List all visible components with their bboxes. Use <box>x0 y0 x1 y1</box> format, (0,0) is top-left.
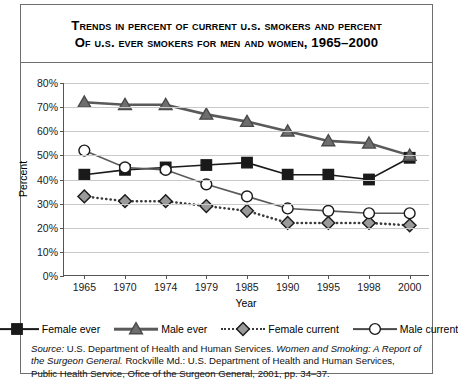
y-tick-label: 60% <box>37 125 58 137</box>
x-tick-label: 1970 <box>113 281 136 293</box>
source-part-2: U.S. Department of Health and Human Serv… <box>64 343 276 354</box>
y-tick-label: 80% <box>37 77 58 89</box>
y-tick-label: 40% <box>37 174 58 186</box>
legend-item-male-current[interactable]: Male current <box>353 323 458 335</box>
data-point-square <box>323 169 333 179</box>
gridline <box>64 107 429 108</box>
y-tick-mark <box>60 131 64 132</box>
data-point-triangle <box>130 323 143 334</box>
x-tick-mark <box>166 275 167 279</box>
y-tick-mark <box>60 83 64 84</box>
data-point-circle <box>364 208 375 219</box>
data-point-circle <box>120 162 131 173</box>
chart-title-line-2: of U.S. Ever Smokers for Men and Women, … <box>75 34 378 51</box>
chart-legend: Female everMale everFemale currentMale c… <box>21 317 432 341</box>
legend-label: Male current <box>400 323 458 335</box>
gridline <box>64 83 429 84</box>
x-tick-mark <box>247 275 248 279</box>
y-tick-mark <box>60 228 64 229</box>
y-tick-label: 0% <box>43 270 58 282</box>
legend-marker <box>128 321 144 337</box>
data-point-diamond <box>78 190 91 203</box>
data-point-diamond <box>159 195 172 208</box>
x-axis-label: Year <box>235 297 256 309</box>
source-label: Source: <box>31 343 64 354</box>
y-tick-mark <box>60 107 64 108</box>
chart-title: Trends in Percent of Current U.S. Smoker… <box>21 5 432 63</box>
data-point-circle <box>242 191 253 202</box>
legend-marker <box>367 321 383 337</box>
x-tick-label: 1998 <box>357 281 380 293</box>
plot-frame: 0%10%20%30%40%50%60%70%80%19651970197419… <box>63 83 429 276</box>
source-note: Source: U.S. Department of Health and Hu… <box>21 341 432 380</box>
y-tick-label: 10% <box>37 246 58 258</box>
y-tick-label: 70% <box>37 101 58 113</box>
data-point-circle <box>79 145 90 156</box>
x-tick-mark <box>288 275 289 279</box>
gridline <box>64 228 429 229</box>
legend-label: Female ever <box>42 323 100 335</box>
y-tick-mark <box>60 276 64 277</box>
x-tick-mark <box>84 275 85 279</box>
x-tick-mark <box>328 275 329 279</box>
x-tick-mark <box>410 275 411 279</box>
y-tick-mark <box>60 252 64 253</box>
plot-area: Percent Year 0%10%20%30%40%50%60%70%80%1… <box>21 63 432 317</box>
data-point-circle <box>282 203 293 214</box>
data-point-circle <box>404 208 415 219</box>
data-point-circle <box>160 164 171 175</box>
gridline <box>64 204 429 205</box>
data-point-diamond <box>200 200 213 213</box>
y-tick-label: 50% <box>37 149 58 161</box>
y-axis-label: Percent <box>17 161 29 197</box>
data-point-circle <box>369 324 380 335</box>
legend-item-female-ever[interactable]: Female ever <box>0 323 100 335</box>
legend-marker <box>9 321 25 337</box>
x-tick-mark <box>206 275 207 279</box>
y-tick-mark <box>60 204 64 205</box>
y-tick-mark <box>60 180 64 181</box>
data-point-square <box>282 169 292 179</box>
x-tick-label: 1974 <box>154 281 177 293</box>
legend-swatch <box>114 323 158 335</box>
legend-swatch <box>0 323 39 335</box>
y-tick-label: 20% <box>37 222 58 234</box>
x-tick-mark <box>369 275 370 279</box>
legend-swatch <box>221 323 265 335</box>
gridline <box>64 252 429 253</box>
x-tick-label: 1995 <box>317 281 340 293</box>
series-line <box>84 102 409 155</box>
legend-item-male-ever[interactable]: Male ever <box>114 323 207 335</box>
gridline <box>64 180 429 181</box>
data-point-diamond <box>241 204 254 217</box>
x-tick-label: 1985 <box>235 281 258 293</box>
x-tick-label: 1990 <box>276 281 299 293</box>
data-point-diamond <box>403 219 416 232</box>
y-tick-mark <box>60 155 64 156</box>
legend-label: Female current <box>268 323 339 335</box>
data-point-square <box>242 157 252 167</box>
data-point-circle <box>201 179 212 190</box>
x-tick-label: 1965 <box>73 281 96 293</box>
legend-swatch <box>353 323 397 335</box>
data-point-square <box>79 169 89 179</box>
x-tick-mark <box>125 275 126 279</box>
chart-title-line-1: Trends in Percent of Current U.S. Smoker… <box>71 17 382 34</box>
data-point-circle <box>323 205 334 216</box>
data-point-diamond <box>237 323 250 336</box>
y-tick-label: 30% <box>37 198 58 210</box>
legend-item-female-current[interactable]: Female current <box>221 323 339 335</box>
legend-marker <box>235 321 251 337</box>
data-point-square <box>201 160 211 170</box>
gridline <box>64 131 429 132</box>
x-tick-label: 2000 <box>398 281 421 293</box>
legend-label: Male ever <box>161 323 207 335</box>
x-tick-label: 1979 <box>195 281 218 293</box>
data-point-square <box>12 324 22 334</box>
data-point-diamond <box>119 195 132 208</box>
gridline <box>64 155 429 156</box>
chart-figure: Trends in Percent of Current U.S. Smoker… <box>20 4 433 374</box>
